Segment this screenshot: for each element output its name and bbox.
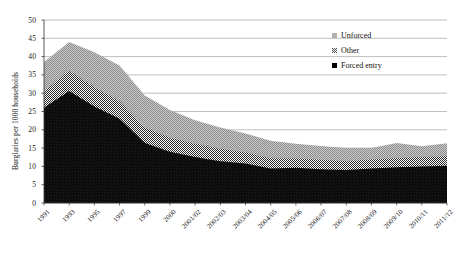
y-tick-label: 40 bbox=[20, 52, 36, 61]
burglaries-stacked-area-chart: Burglaries per 1000 households 051015202… bbox=[0, 0, 461, 255]
y-tick-label: 45 bbox=[20, 34, 36, 43]
legend-label-unforced: Unforced bbox=[341, 32, 371, 40]
legend-swatch-other-icon bbox=[332, 48, 337, 53]
y-tick-label: 15 bbox=[20, 144, 36, 153]
legend-label-forced-entry: Forced entry bbox=[341, 62, 382, 70]
y-tick-label: 25 bbox=[20, 107, 36, 116]
legend-item-unforced[interactable]: Unforced bbox=[332, 28, 414, 43]
y-tick-label: 35 bbox=[20, 70, 36, 79]
y-axis-label: Burglaries per 1000 households bbox=[11, 72, 20, 170]
y-tick-label: 20 bbox=[20, 125, 36, 134]
legend-swatch-forced-entry-icon bbox=[332, 63, 337, 68]
legend-label-other: Other bbox=[341, 47, 359, 55]
legend-swatch-unforced-icon bbox=[332, 33, 337, 38]
legend-item-forced-entry[interactable]: Forced entry bbox=[332, 58, 414, 73]
y-tick-label: 50 bbox=[20, 16, 36, 25]
y-tick-label: 0 bbox=[20, 199, 36, 208]
y-tick-label: 30 bbox=[20, 89, 36, 98]
y-tick-label: 5 bbox=[20, 180, 36, 189]
chart-legend: Unforced Other Forced entry bbox=[332, 28, 414, 73]
y-tick-label: 10 bbox=[20, 162, 36, 171]
legend-item-other[interactable]: Other bbox=[332, 43, 414, 58]
